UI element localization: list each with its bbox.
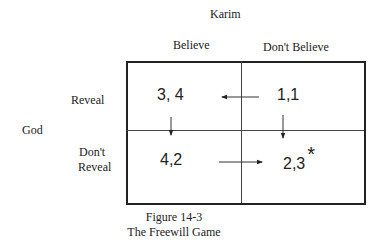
figure-number: Figure 14-3 — [94, 210, 254, 225]
figure-title: The Freewill Game — [94, 225, 254, 240]
